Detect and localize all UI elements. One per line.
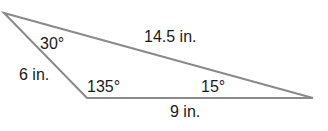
triangle-shape [0,0,328,131]
side-left-label: 6 in. [19,67,49,83]
side-bottom-label: 9 in. [170,104,200,120]
side-top-label: 14.5 in. [144,29,196,45]
angle-bottom-left-label: 135° [87,79,120,95]
angle-right-label: 15° [201,79,225,95]
triangle-diagram: 30° 14.5 in. 6 in. 135° 15° 9 in. [0,0,328,131]
angle-top-left-label: 30° [40,36,64,52]
